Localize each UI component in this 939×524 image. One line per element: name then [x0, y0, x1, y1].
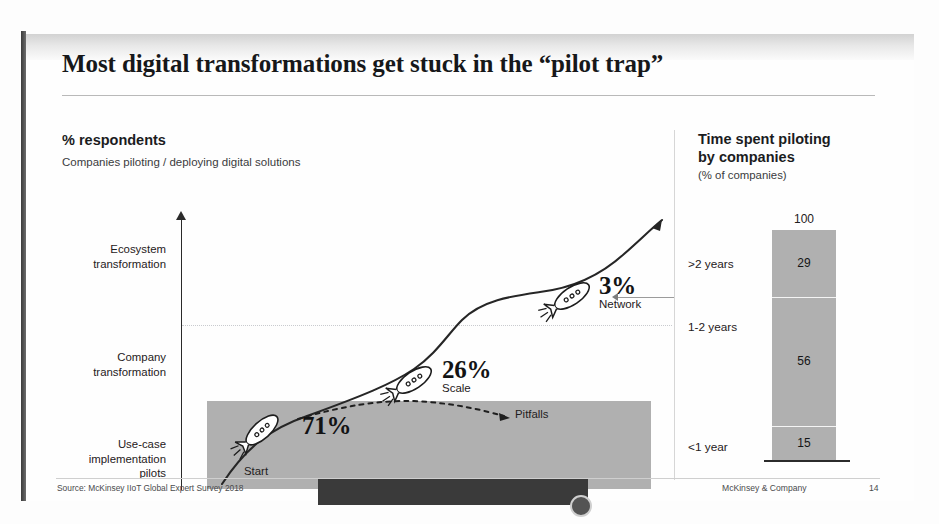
pitfalls-label: Pitfalls: [515, 408, 549, 420]
page-title: Most digital transformations get stuck i…: [62, 50, 663, 78]
slide-surface: Most digital transformations get stuck i…: [26, 34, 914, 501]
bar-segment-1-2-years-value: 56: [797, 354, 810, 368]
stat-26-percent: 26% Scale: [442, 356, 491, 394]
panel-divider: [674, 130, 675, 480]
record-button-icon[interactable]: [570, 495, 592, 517]
s-curve-drawing: [62, 184, 672, 474]
stat-3-name: Network: [599, 298, 641, 310]
footer-brand: McKinsey & Company: [722, 483, 807, 493]
footer-page-number: 14: [869, 483, 879, 493]
title-divider: [62, 95, 875, 96]
right-panel-subtitle: (% of companies): [698, 169, 787, 181]
rocket-icon-start: [228, 410, 283, 462]
stat-26-value: 26%: [442, 356, 491, 383]
left-panel-subtitle: Companies piloting / deploying digital s…: [62, 156, 300, 168]
stat-71-percent: 71%: [302, 412, 351, 440]
rocket-icon-network: [535, 277, 593, 324]
s-curve-arrowhead: [652, 220, 662, 231]
footer-source: Source: McKinsey IIoT Global Expert Surv…: [57, 483, 244, 493]
stat-3-percent: 3% Network: [599, 272, 641, 310]
category-label-over-2-years: >2 years: [688, 257, 762, 271]
right-panel-title-line2: by companies: [698, 149, 795, 165]
band-to-bar-connector: [615, 297, 674, 298]
bar-baseline: [764, 460, 850, 462]
right-panel-title-line1: Time spent piloting: [698, 131, 831, 147]
pitfalls-arrowhead: [499, 413, 510, 421]
stacked-bar-chart: 29 56 15: [772, 230, 836, 460]
bar-segment-under-1-year-value: 15: [797, 436, 810, 450]
band-to-bar-connector-arrow-icon: [612, 293, 618, 301]
category-label-under-1-year: <1 year: [688, 440, 762, 454]
bottom-overlay-bar[interactable]: [318, 479, 588, 505]
bar-segment-under-1-year: 15: [772, 426, 836, 461]
left-panel-kicker: % respondents: [62, 132, 166, 148]
bar-segment-1-2-years: 56: [772, 297, 836, 426]
bar-segment-over-2-years: 29: [772, 230, 836, 297]
category-label-1-2-years: 1-2 years: [688, 320, 762, 334]
stat-26-name: Scale: [442, 382, 491, 394]
bar-total-label: 100: [772, 212, 836, 226]
right-panel-title: Time spent piloting by companies: [698, 130, 831, 166]
s-curve-chart: Ecosystem transformation Company transfo…: [62, 184, 672, 474]
bar-segment-over-2-years-value: 29: [797, 256, 810, 270]
start-label: Start: [244, 465, 268, 477]
s-curve-path: [222, 220, 662, 484]
stat-71-value: 71%: [302, 412, 351, 439]
slide-screenshot: Most digital transformations get stuck i…: [0, 0, 939, 524]
